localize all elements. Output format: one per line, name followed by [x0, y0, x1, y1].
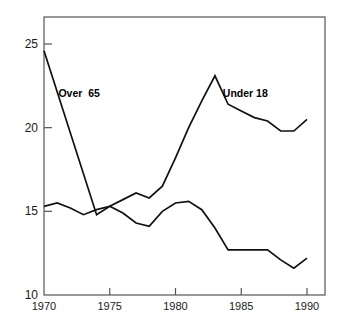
data-series-group — [44, 51, 307, 269]
y-axis-tick-label: 20 — [12, 122, 38, 134]
x-axis-tick-label: 1985 — [221, 301, 261, 312]
y-axis-tick-label: 15 — [12, 205, 38, 217]
x-axis-tick-label: 1990 — [287, 301, 327, 312]
x-axis-tick-label: 1980 — [156, 301, 196, 312]
line-chart-plot — [0, 0, 345, 326]
x-axis-tick-label: 1975 — [90, 301, 130, 312]
series-label: Under 18 — [223, 88, 268, 99]
x-axis-ticks — [110, 288, 307, 295]
plot-frame-rect — [44, 17, 325, 295]
y-axis-ticks — [44, 44, 52, 211]
y-axis-tick-label: 25 — [12, 38, 38, 50]
plot-frame — [44, 17, 325, 295]
series-label: Over 65 — [58, 88, 99, 99]
x-axis-tick-label: 1970 — [24, 301, 64, 312]
chart-container: 10152025 19701975198019851990 Over 65Und… — [0, 0, 345, 326]
